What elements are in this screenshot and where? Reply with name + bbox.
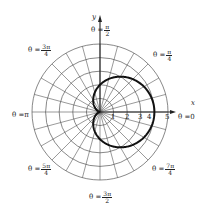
grid-spoke: [82, 112, 100, 178]
angle-label-0: θ = 0: [178, 114, 195, 121]
angle-label-3pi-over-4: θ = 3π4: [28, 44, 51, 57]
angle-label-pi-over-4: θ = π4: [153, 49, 172, 62]
grid-spoke: [100, 94, 166, 112]
radial-tick-5: 5: [165, 114, 169, 121]
angle-label-7pi-over-4: θ = 7π4: [152, 163, 175, 176]
x-axis-label: x: [191, 100, 195, 107]
grid-spoke: [100, 64, 148, 112]
grid-spoke: [41, 112, 100, 146]
polar-graph: x y 1 2 3 4 5 θ = 0 θ = π4 θ = π2 θ = 3π…: [0, 0, 207, 216]
grid-spoke: [100, 112, 166, 130]
angle-label-3pi-over-2: θ = 3π2: [89, 191, 112, 204]
radial-tick-3: 3: [138, 114, 142, 121]
grid-spoke: [34, 94, 100, 112]
y-axis-arrow-icon: [98, 15, 102, 22]
angle-label-pi-over-2: θ = π2: [91, 24, 110, 37]
angle-label-pi: θ = π: [12, 112, 29, 119]
grid-spoke: [34, 112, 100, 130]
radial-tick-2: 2: [125, 114, 129, 121]
grid-spoke: [66, 53, 100, 112]
grid-spoke: [82, 46, 100, 112]
y-axis-label: y: [92, 14, 96, 21]
grid-spoke: [41, 78, 100, 112]
radial-tick-1: 1: [111, 114, 115, 121]
angle-label-5pi-over-4: θ = 5π4: [28, 163, 51, 176]
grid-spoke: [100, 53, 134, 112]
radial-tick-4: 4: [147, 114, 151, 121]
x-axis-arrow-icon: [170, 110, 176, 114]
grid-spoke: [66, 112, 100, 171]
